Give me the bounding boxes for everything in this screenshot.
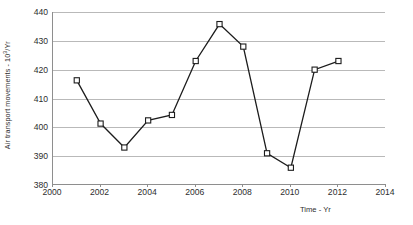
x-axis-tick-label: 2002 (80, 188, 120, 197)
data-point-marker (241, 44, 246, 49)
data-point-marker (146, 118, 151, 123)
y-axis-tick-label: 420 (2, 65, 48, 74)
x-axis-tick-label: 2014 (365, 188, 405, 197)
x-axis-tick-label: 2008 (222, 188, 262, 197)
y-axis-tick-labels: 380390400410420430440 (0, 12, 48, 185)
x-axis-tick-labels: 20002002200420062008201020122014 (52, 188, 385, 202)
x-axis-tick-mark (147, 184, 148, 187)
y-axis-tick-label: 440 (2, 8, 48, 17)
data-point-marker (169, 112, 174, 117)
series-line (77, 24, 339, 168)
data-point-marker (74, 78, 79, 83)
x-axis-tick-label: 2006 (175, 188, 215, 197)
x-axis-tick-mark (195, 184, 196, 187)
x-axis-tick-label: 2012 (317, 188, 357, 197)
x-axis-tick-mark (385, 184, 386, 187)
y-axis-tick-label: 400 (2, 123, 48, 132)
x-axis-tick-mark (242, 184, 243, 187)
data-point-marker (217, 22, 222, 27)
data-point-marker (312, 67, 317, 72)
x-axis-tick-mark (337, 184, 338, 187)
data-point-marker (264, 151, 269, 156)
y-axis-tick-label: 390 (2, 152, 48, 161)
line-chart-figure: Air transport movements - 103/Yr 3803904… (0, 0, 413, 225)
y-axis-tick-label: 410 (2, 94, 48, 103)
series-markers (74, 22, 341, 171)
x-axis-tick-mark (100, 184, 101, 187)
data-point-marker (122, 145, 127, 150)
data-series-svg (53, 12, 386, 185)
x-axis-tick-label: 2000 (32, 188, 72, 197)
data-point-marker (98, 121, 103, 126)
x-axis-tick-mark (52, 184, 53, 187)
data-point-marker (193, 58, 198, 63)
x-axis-title: Time - Yr (300, 205, 331, 214)
data-point-marker (336, 58, 341, 63)
x-axis-tick-label: 2004 (127, 188, 167, 197)
y-axis-tick-label: 430 (2, 37, 48, 46)
x-axis-tick-mark (290, 184, 291, 187)
x-axis-tick-label: 2010 (270, 188, 310, 197)
plot-area (52, 12, 385, 185)
data-point-marker (288, 165, 293, 170)
